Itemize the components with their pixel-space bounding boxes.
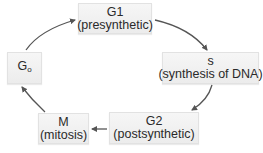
cell-cycle-diagram: G1 (presynthetic) s (synthesis of DNA) G… [0, 0, 263, 153]
node-s-synthesis: s (synthesis of DNA) [162, 52, 259, 84]
arrow-g0-to-g1 [26, 20, 75, 50]
node-title: G1 [107, 6, 124, 19]
node-title-subscript: o [27, 65, 31, 74]
node-g1-presynthetic: G1 (presynthetic) [78, 3, 152, 34]
node-g0-resting: Go [7, 52, 42, 84]
arrow-g1-to-s [155, 20, 207, 50]
node-m-mitosis: M (mitosis) [38, 113, 89, 144]
node-g2-postsynthetic: G2 (postsynthetic) [109, 112, 199, 144]
node-title: Go [17, 60, 31, 76]
arrow-s-to-g2 [192, 85, 212, 110]
node-title: M [58, 116, 68, 129]
node-subtitle: (mitosis) [40, 129, 87, 142]
node-subtitle: (synthesis of DNA) [158, 68, 262, 81]
node-title-main: G [17, 59, 27, 73]
arrow-m-to-g0 [22, 87, 45, 112]
node-subtitle: (postsynthetic) [113, 128, 194, 141]
node-subtitle: (presynthetic) [77, 19, 153, 32]
